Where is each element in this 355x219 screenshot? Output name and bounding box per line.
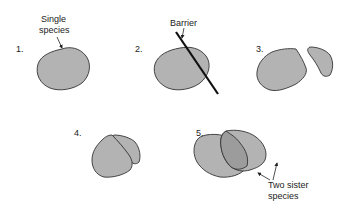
step-2-number: 2. — [135, 44, 143, 54]
single-species-arrow — [57, 37, 62, 48]
two-sister-species-label-line1: Two sister — [268, 180, 309, 190]
species-population-3a — [257, 49, 307, 91]
step-4: 4. — [74, 128, 140, 177]
speciation-diagram: 1. Single species 2. Barrier 3. 4. 5. Tw… — [0, 0, 355, 219]
species-population-1 — [37, 48, 89, 90]
sister-species-arrow-b — [273, 163, 277, 180]
species-population-3b — [308, 47, 333, 76]
step-1: 1. Single species — [16, 14, 89, 90]
single-species-label-line2: species — [39, 25, 70, 35]
step-4-number: 4. — [74, 128, 82, 138]
barrier-arrow — [182, 28, 184, 38]
single-species-label-line1: Single — [41, 14, 66, 24]
sister-species-arrow-a — [258, 173, 270, 180]
step-2: 2. Barrier — [135, 18, 218, 94]
step-3-number: 3. — [256, 44, 264, 54]
two-sister-species-label-line2: species — [268, 191, 299, 201]
barrier-label: Barrier — [170, 18, 197, 28]
step-5: 5. Two sister species — [194, 128, 309, 201]
step-3: 3. — [256, 44, 333, 91]
step-1-number: 1. — [16, 44, 24, 54]
